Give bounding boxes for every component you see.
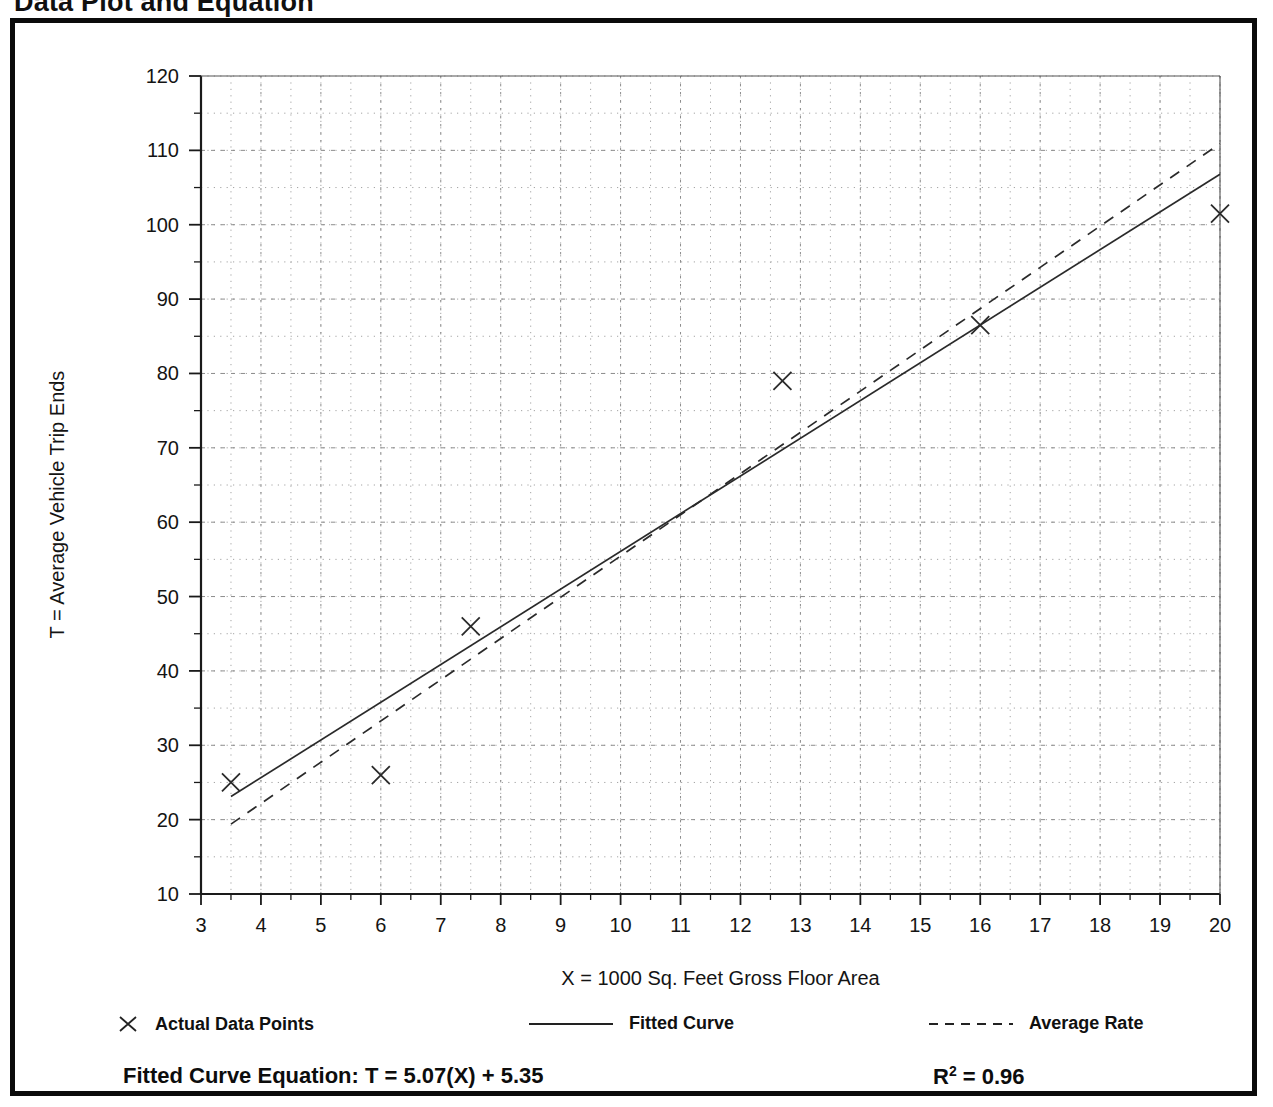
r-squared-number: = 0.96 (963, 1064, 1025, 1089)
chart-legend: Actual Data Points Fitted Curve Average … (15, 1013, 1262, 1053)
x-axis-tick-labels: 34567891011121314151617181920 (195, 914, 1231, 936)
legend-item-fitted-curve: Fitted Curve (527, 1013, 734, 1034)
actual-data-points (222, 205, 1229, 792)
data-point-marker (222, 773, 240, 791)
average-rate-line (231, 144, 1220, 824)
x-tick-label: 20 (1209, 914, 1231, 936)
dashed-line-swatch-icon (927, 1018, 1015, 1030)
y-axis-ticks (189, 76, 201, 894)
data-point-marker (971, 316, 989, 334)
y-tick-label: 60 (157, 511, 179, 533)
data-point-marker (773, 372, 791, 390)
page-title: Data Plot and Equation (14, 0, 314, 18)
y-tick-label: 30 (157, 734, 179, 756)
x-tick-label: 11 (670, 914, 691, 936)
y-tick-label: 70 (157, 437, 179, 459)
y-tick-label: 100 (146, 214, 179, 236)
y-tick-label: 50 (157, 586, 179, 608)
x-tick-label: 15 (909, 914, 931, 936)
x-tick-label: 4 (255, 914, 266, 936)
chart-plot-area: 34567891011121314151617181920 1020304050… (15, 23, 1252, 1091)
y-tick-label: 80 (157, 362, 179, 384)
fitted-curve-equation: Fitted Curve Equation: T = 5.07(X) + 5.3… (123, 1063, 544, 1089)
data-point-marker (462, 617, 480, 635)
legend-label-fitted-curve: Fitted Curve (629, 1013, 734, 1034)
equation-row: Fitted Curve Equation: T = 5.07(X) + 5.3… (15, 1063, 1262, 1107)
y-tick-label: 10 (157, 883, 179, 905)
legend-item-average-rate: Average Rate (927, 1013, 1143, 1034)
x-tick-label: 16 (969, 914, 991, 936)
y-tick-label: 120 (146, 65, 179, 87)
x-tick-label: 10 (609, 914, 631, 936)
r-squared-exponent: 2 (949, 1063, 957, 1079)
x-tick-label: 9 (555, 914, 566, 936)
x-tick-label: 6 (375, 914, 386, 936)
x-tick-label: 18 (1089, 914, 1111, 936)
y-tick-label: 40 (157, 660, 179, 682)
y-axis-title: T = Average Vehicle Trip Ends (46, 295, 69, 715)
x-tick-label: 14 (849, 914, 871, 936)
legend-item-actual-data-points: Actual Data Points (115, 1013, 314, 1035)
x-tick-label: 8 (495, 914, 506, 936)
x-tick-label: 7 (435, 914, 446, 936)
x-tick-label: 5 (315, 914, 326, 936)
y-axis-tick-labels: 102030405060708090100110120 (146, 65, 179, 905)
x-tick-label: 3 (195, 914, 206, 936)
legend-label-actual-data-points: Actual Data Points (155, 1014, 314, 1035)
x-axis-title: X = 1000 Sq. Feet Gross Floor Area (211, 967, 1230, 990)
y-tick-label: 90 (157, 288, 179, 310)
y-tick-label: 20 (157, 809, 179, 831)
x-axis-ticks (201, 894, 1220, 905)
x-tick-label: 17 (1029, 914, 1051, 936)
y-tick-label: 110 (147, 139, 179, 161)
x-tick-label: 13 (789, 914, 811, 936)
x-cross-marker-icon (115, 1013, 141, 1035)
r-squared-value: R2 = 0.96 (933, 1063, 1025, 1090)
x-tick-label: 19 (1149, 914, 1171, 936)
x-tick-label: 12 (729, 914, 751, 936)
legend-label-average-rate: Average Rate (1029, 1013, 1143, 1034)
figure-frame: 34567891011121314151617181920 1020304050… (10, 18, 1257, 1096)
solid-line-swatch-icon (527, 1018, 615, 1030)
r-squared-letter: R (933, 1064, 949, 1089)
minor-vertical-gridlines (201, 76, 1220, 894)
